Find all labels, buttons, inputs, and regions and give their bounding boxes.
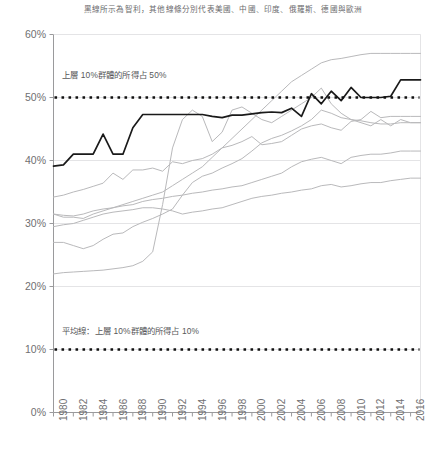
x-axis-tick-label: 2014 xyxy=(395,398,406,420)
x-axis-tick-label: 1992 xyxy=(177,398,188,420)
x-axis-tick-label: 2006 xyxy=(316,398,327,420)
y-axis-tick-label: 20% xyxy=(6,280,46,292)
x-axis-tick-label: 1990 xyxy=(157,398,168,420)
x-axis-tick-label: 1980 xyxy=(58,398,69,420)
y-axis-tick-label: 50% xyxy=(6,91,46,103)
x-axis-tick-label: 1996 xyxy=(217,398,228,420)
x-axis-tick-label: 2010 xyxy=(356,398,367,420)
x-axis-tick-label: 1988 xyxy=(137,398,148,420)
chart-figure: 黑線所示為智利，其他線條分別代表美國、中國、印度、俄羅斯、德國與歐洲 60%50… xyxy=(0,0,446,468)
x-axis-tick-label: 1998 xyxy=(237,398,248,420)
x-axis-tick-label: 2002 xyxy=(276,398,287,420)
x-axis-tick-label: 2012 xyxy=(375,398,386,420)
x-axis-tick-label: 1982 xyxy=(78,398,89,420)
x-axis-tick-label: 1994 xyxy=(197,398,208,420)
x-axis-tick-label: 2008 xyxy=(336,398,347,420)
data-series xyxy=(54,53,421,274)
x-axis-tick-label: 2016 xyxy=(415,398,426,420)
series-line xyxy=(54,80,421,166)
y-axis-tick-label: 40% xyxy=(6,154,46,166)
x-axis-tick-label: 2000 xyxy=(256,398,267,420)
x-axis-tick-label: 1986 xyxy=(118,398,129,420)
x-axis-tick-label: 2004 xyxy=(296,398,307,420)
x-axis-tick-label: 1984 xyxy=(98,398,109,420)
annotation-average-10: 平均線：上層 10%群體的所得占 10% xyxy=(62,324,199,336)
annotation-top-decile-50: 上層 10%群體的所得占 50% xyxy=(62,68,167,80)
series-line xyxy=(54,110,421,249)
y-axis-tick-label: 10% xyxy=(6,343,46,355)
series-line xyxy=(54,178,421,227)
y-axis-tick-label: 60% xyxy=(6,28,46,40)
y-axis-tick-label: 0% xyxy=(6,406,46,418)
grid-lines xyxy=(54,35,421,350)
y-axis-tick-label: 30% xyxy=(6,217,46,229)
